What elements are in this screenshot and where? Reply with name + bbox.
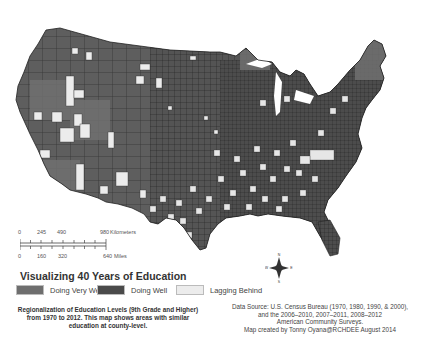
map-figure: 0 245 490 980 Kilometers [0,0,427,339]
legend-swatch-doing-very-well [16,285,44,295]
svg-text:S: S [278,280,281,283]
compass-rose-icon: N S W E [265,253,293,283]
data-source: Data Source: U.S. Census Bureau (1970, 1… [220,303,420,333]
scale-bar: 0 245 490 980 Kilometers [18,229,148,265]
map-title: Visualizing 40 Years of Education [20,270,187,282]
legend-swatch-lagging-behind [176,285,204,295]
scale-mi-unit: Miles [114,253,127,259]
source-line-4: Map created by Tonny Oyana@RCHDEE August… [220,326,420,334]
legend-label: Doing Very Well [50,286,103,295]
source-line-3: American Community Surveys. [220,318,420,326]
legend-item-doing-very-well: Doing Very Well [16,284,103,296]
scale-km-980: 980 [100,229,109,235]
scale-mi-640: 640 [103,253,112,259]
scale-km-unit: Kilometers [110,229,136,235]
legend-label: Doing Well [131,286,167,295]
scale-mi-0: 0 [18,253,21,259]
legend-label: Lagging Behind [210,286,262,295]
legend-item-doing-well: Doing Well [97,284,167,296]
scale-km-245: 245 [37,229,46,235]
map-description: Regionalization of Education Levels (9th… [14,306,202,330]
legend-swatch-doing-well [97,285,125,295]
scale-km-490: 490 [57,229,66,235]
florida [318,220,340,256]
svg-text:W: W [265,266,269,270]
svg-text:E: E [290,266,293,270]
scale-km-0: 0 [18,229,21,235]
scale-mi-320: 320 [58,253,67,259]
source-line-1: Data Source: U.S. Census Bureau (1970, 1… [220,303,420,311]
legend-item-lagging-behind: Lagging Behind [176,284,262,296]
source-line-2: and the 2006–2010, 2007–2011, 2008–2012 [220,311,420,319]
scale-mi-160: 160 [37,253,46,259]
svg-text:N: N [278,253,281,257]
